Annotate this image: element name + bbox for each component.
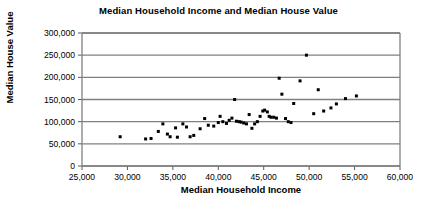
data-point (181, 122, 184, 125)
data-point (292, 102, 295, 105)
data-point (355, 94, 358, 97)
data-point (217, 121, 220, 124)
data-point (230, 117, 233, 120)
data-point (199, 127, 202, 130)
data-point (317, 88, 320, 91)
data-point (225, 122, 228, 125)
x-tick-label: 60,000 (387, 172, 414, 182)
data-point (235, 120, 238, 123)
data-point (250, 127, 253, 130)
data-point (322, 110, 325, 113)
data-point (275, 117, 278, 120)
data-point (248, 113, 251, 116)
data-point (329, 106, 332, 109)
x-tick-label: 30,000 (114, 172, 141, 182)
data-point (157, 130, 160, 133)
data-point (144, 137, 147, 140)
data-point (219, 115, 222, 118)
data-point (253, 122, 256, 125)
data-point (284, 117, 287, 120)
x-axis-ticks: 25,00030,00035,00040,00045,00050,00055,0… (69, 166, 414, 182)
data-point (166, 133, 169, 136)
x-tick-label: 50,000 (296, 172, 323, 182)
data-point (278, 77, 281, 80)
data-point (228, 119, 231, 122)
data-point (312, 112, 315, 115)
y-axis-ticks: 050,000100,000150,000200,000250,000300,0… (44, 28, 82, 171)
data-point (299, 79, 302, 82)
data-point (119, 135, 122, 138)
x-tick-label: 25,000 (69, 172, 96, 182)
data-point (289, 121, 292, 124)
y-tick-label: 150,000 (44, 95, 75, 105)
data-point (280, 93, 283, 96)
data-point (185, 125, 188, 128)
data-point (242, 121, 245, 124)
y-tick-label: 100,000 (44, 117, 75, 127)
data-point (269, 116, 272, 119)
data-point (203, 117, 206, 120)
data-point (207, 124, 210, 127)
data-point (169, 135, 172, 138)
data-point (266, 110, 269, 113)
data-point (259, 115, 262, 118)
data-point (305, 54, 308, 57)
data-point (287, 120, 290, 123)
data-point (161, 122, 164, 125)
data-point (150, 137, 153, 140)
x-tick-label: 45,000 (251, 172, 278, 182)
x-tick-label: 35,000 (160, 172, 187, 182)
y-tick-label: 200,000 (44, 72, 75, 82)
y-tick-label: 300,000 (44, 28, 75, 38)
y-tick-label: 250,000 (44, 50, 75, 60)
data-point (256, 120, 259, 123)
data-point (192, 134, 195, 137)
plot-area: 050,000100,000150,000200,000250,000300,0… (0, 0, 437, 203)
data-point (245, 122, 248, 125)
data-point (335, 102, 338, 105)
data-point (240, 121, 243, 124)
y-tick-label: 50,000 (49, 139, 76, 149)
data-point (344, 97, 347, 100)
data-point (263, 109, 266, 112)
scatter-chart: Median Household Income and Median House… (0, 0, 437, 203)
data-point (221, 120, 224, 123)
data-point (233, 98, 236, 101)
data-point (212, 125, 215, 128)
x-tick-label: 40,000 (205, 172, 232, 182)
y-tick-label: 0 (70, 161, 75, 171)
data-point (189, 135, 192, 138)
data-point (174, 126, 177, 129)
x-tick-label: 55,000 (341, 172, 368, 182)
data-point (176, 136, 179, 139)
data-point (272, 116, 275, 119)
